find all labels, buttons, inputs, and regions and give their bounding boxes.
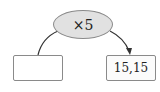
operator-label: ×5 [73,17,94,33]
operator-ellipse: ×5 [53,10,113,39]
output-box: 15,15 [106,55,156,81]
output-value: 15,15 [114,61,148,75]
input-box [13,55,63,81]
arrowhead-icon [126,48,132,55]
diagram-canvas: ×5 15,15 [0,0,160,92]
input-connector [38,31,58,55]
